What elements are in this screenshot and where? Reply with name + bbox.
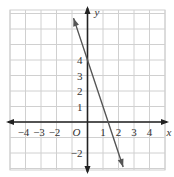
x-tick-label: 3: [131, 126, 137, 138]
x-tick-label: −2: [49, 126, 61, 138]
x-tick-label: −4: [18, 126, 30, 138]
y-tick-label: 4: [77, 54, 83, 66]
line-arrow-start-icon: [73, 18, 79, 27]
y-tick-label: 3: [77, 70, 83, 82]
x-tick-label: 4: [147, 126, 153, 138]
y-tick-label: 1: [77, 101, 83, 113]
y-axis-label: y: [94, 6, 100, 18]
x-tick-label: 1: [100, 126, 106, 138]
x-tick-label: 2: [116, 126, 122, 138]
coordinate-plane: −4−3−212344321−2Oxy: [0, 0, 174, 177]
y-tick-label: −2: [71, 147, 83, 159]
x-tick-label: −3: [33, 126, 45, 138]
x-axis-label: x: [166, 126, 172, 138]
origin-label: O: [73, 126, 81, 138]
y-tick-label: 2: [77, 85, 83, 97]
